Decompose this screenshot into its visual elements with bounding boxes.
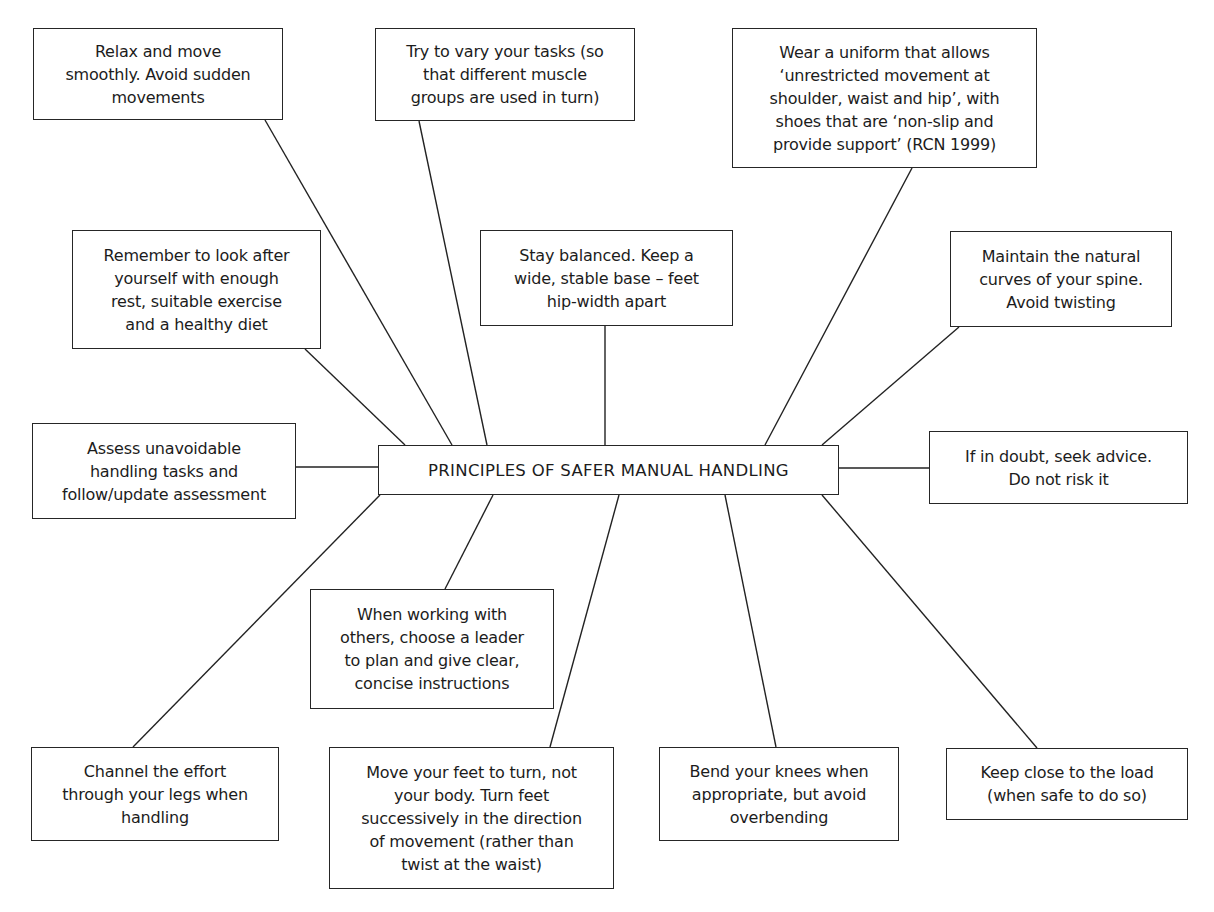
principle-text: Bend your knees when appropriate, but av… <box>690 760 869 829</box>
principle-text: Move your feet to turn, not your body. T… <box>361 761 582 876</box>
principle-box-stay-balanced: Stay balanced. Keep a wide, stable base … <box>480 230 733 326</box>
connector-line-look-after <box>305 349 405 445</box>
principle-box-leader: When working with others, choose a leade… <box>310 589 554 709</box>
principle-text: Remember to look after yourself with eno… <box>104 244 290 336</box>
principle-box-keep-close: Keep close to the load (when safe to do … <box>946 748 1188 820</box>
connector-line-keep-close <box>822 495 1037 748</box>
connector-line-vary-tasks <box>419 121 487 445</box>
principle-text: Assess unavoidable handling tasks and fo… <box>62 437 266 506</box>
principle-box-relax: Relax and move smoothly. Avoid sudden mo… <box>33 28 283 120</box>
central-topic-box: PRINCIPLES OF SAFER MANUAL HANDLING <box>378 445 839 495</box>
principle-box-natural-curves: Maintain the natural curves of your spin… <box>950 231 1172 327</box>
principle-text: Channel the effort through your legs whe… <box>62 760 248 829</box>
connector-line-bend-knees <box>725 495 776 747</box>
principle-box-uniform: Wear a uniform that allows ‘unrestricted… <box>732 28 1037 168</box>
principle-box-vary-tasks: Try to vary your tasks (so that differen… <box>375 28 635 121</box>
principle-text: Wear a uniform that allows ‘unrestricted… <box>770 41 1000 156</box>
principle-box-bend-knees: Bend your knees when appropriate, but av… <box>659 747 899 841</box>
principle-text: Keep close to the load (when safe to do … <box>980 761 1153 807</box>
principle-text: Try to vary your tasks (so that differen… <box>406 40 603 109</box>
connector-line-leader <box>445 495 493 589</box>
principle-box-assess: Assess unavoidable handling tasks and fo… <box>32 423 296 519</box>
principle-box-channel-effort: Channel the effort through your legs whe… <box>31 747 279 841</box>
principle-text: If in doubt, seek advice. Do not risk it <box>965 445 1152 491</box>
mind-map-diagram: PRINCIPLES OF SAFER MANUAL HANDLING Rela… <box>0 0 1214 912</box>
principle-text: Maintain the natural curves of your spin… <box>979 245 1143 314</box>
principle-text: Relax and move smoothly. Avoid sudden mo… <box>65 40 250 109</box>
principle-text: Stay balanced. Keep a wide, stable base … <box>514 244 699 313</box>
connector-line-uniform <box>765 168 912 445</box>
connector-line-move-feet <box>550 495 619 747</box>
principle-box-look-after: Remember to look after yourself with eno… <box>72 230 321 349</box>
principle-box-move-feet: Move your feet to turn, not your body. T… <box>329 747 614 889</box>
principle-box-seek-advice: If in doubt, seek advice. Do not risk it <box>929 431 1188 504</box>
principle-text: When working with others, choose a leade… <box>340 603 524 695</box>
central-topic-title: PRINCIPLES OF SAFER MANUAL HANDLING <box>428 459 789 482</box>
connector-line-natural-curves <box>822 327 959 445</box>
